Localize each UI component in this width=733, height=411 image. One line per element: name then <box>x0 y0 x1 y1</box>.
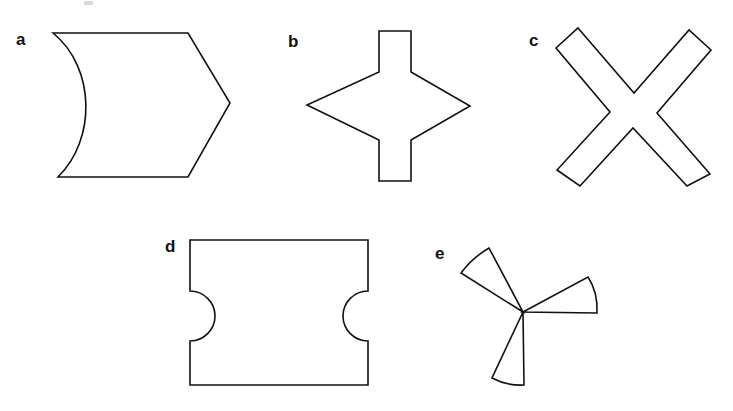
panel-label-d: d <box>165 237 175 256</box>
shape-a-concave-left-pentagon-arrow <box>53 33 230 177</box>
panel-label-e: e <box>435 244 444 263</box>
panel-b: b <box>288 31 470 181</box>
panel-e: e <box>435 244 597 385</box>
panel-d: d <box>165 237 368 385</box>
shape-b-diamond-with-top-and-bottom-tabs <box>307 31 470 181</box>
figure-container: a b c d e <box>0 0 733 411</box>
shape-e-blade-right <box>523 277 597 313</box>
shape-c-diagonal-cross-x <box>556 28 711 186</box>
panel-label-b: b <box>288 32 298 51</box>
panel-a: a <box>16 30 230 177</box>
shapes-figure: a b c d e <box>0 0 733 411</box>
panel-label-c: c <box>529 31 538 50</box>
shape-e-blade-bottom <box>492 312 524 385</box>
panel-label-a: a <box>16 30 26 49</box>
panel-c: c <box>529 28 711 186</box>
shape-e-blade-upper-left <box>461 248 523 312</box>
scan-speck-artifact <box>84 1 93 5</box>
shape-d-rectangle-with-side-semicircular-notches <box>190 240 368 385</box>
